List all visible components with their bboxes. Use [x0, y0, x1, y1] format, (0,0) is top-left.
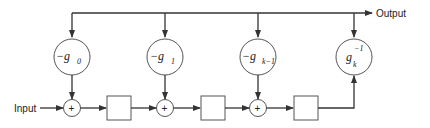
svg-text:k−1: k−1 [262, 57, 275, 66]
svg-text:1: 1 [171, 57, 175, 66]
adder-0: + [64, 100, 81, 117]
svg-text:−g: −g [242, 49, 256, 63]
multiplier-neg-g1: −g 1 [147, 39, 183, 75]
svg-text:0: 0 [77, 57, 81, 66]
adder-1: + [157, 100, 174, 117]
input-label: Input [14, 103, 36, 114]
delay-register-0 [107, 96, 131, 120]
delay-register-2 [294, 96, 318, 120]
multiplier-neg-g0: −g 0 [54, 39, 90, 75]
svg-text:−g: −g [56, 49, 70, 63]
svg-text:+: + [255, 103, 261, 114]
svg-text:g: g [346, 50, 352, 64]
svg-text:−1: −1 [354, 44, 363, 53]
adder-2: + [250, 100, 267, 117]
output-label: Output [376, 8, 406, 19]
svg-text:k: k [353, 60, 357, 69]
svg-text:−g: −g [150, 49, 164, 63]
svg-text:+: + [162, 103, 168, 114]
svg-text:+: + [69, 103, 75, 114]
multiplier-gk-inverse: g −1 k [336, 39, 372, 75]
multiplier-neg-gk-minus-1: −g k−1 [240, 39, 276, 75]
delay-register-1 [201, 96, 225, 120]
output-bus: Output [72, 8, 406, 19]
lfsr-division-circuit-diagram: Output −g 0 −g 1 −g k−1 g −1 k Input + + [0, 0, 430, 128]
delay2-to-gk-inverse [318, 76, 354, 108]
